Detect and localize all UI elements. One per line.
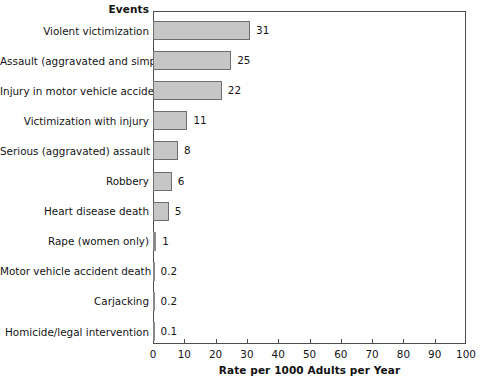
x-axis-tick-label: 20 — [209, 348, 222, 360]
x-axis-tick-label: 100 — [456, 348, 476, 360]
category-label: Victimization with injury — [0, 115, 149, 127]
bar-value-label: 0.2 — [161, 262, 178, 281]
x-axis-tick-label: 80 — [397, 348, 410, 360]
x-axis-tick — [310, 339, 311, 343]
category-label: Rape (women only) — [0, 235, 149, 247]
bar-value-label: 11 — [193, 111, 206, 130]
x-axis-tick-label: 70 — [365, 348, 378, 360]
x-axis-tick-label: 90 — [428, 348, 441, 360]
bar — [153, 111, 187, 130]
category-label: Carjacking — [0, 295, 149, 307]
category-label: Assault (aggravated and simple) — [0, 55, 149, 67]
x-axis-tick — [435, 339, 436, 343]
bar-value-label: 5 — [175, 202, 182, 221]
category-label: Heart disease death — [0, 205, 149, 217]
bar-value-label: 8 — [184, 141, 191, 160]
x-axis-tick — [184, 339, 185, 343]
category-label: Injury in motor vehicle accident — [0, 85, 149, 97]
bar — [153, 322, 155, 341]
bar-value-label: 0.2 — [161, 292, 178, 311]
bar — [153, 232, 156, 251]
bar — [153, 262, 155, 281]
x-axis-tick-label: 60 — [334, 348, 347, 360]
category-label: Motor vehicle accident death — [0, 265, 149, 277]
bar — [153, 81, 222, 100]
bar-value-label: 22 — [228, 81, 241, 100]
x-axis-tick — [372, 339, 373, 343]
x-axis-title: Rate per 1000 Adults per Year — [153, 364, 466, 376]
bar-chart: Events Violent victimizationAssault (agg… — [0, 0, 482, 385]
x-axis-tick — [247, 339, 248, 343]
bar-value-label: 0.1 — [161, 322, 178, 341]
bar-value-label: 6 — [178, 172, 185, 191]
bar-value-label: 31 — [256, 21, 269, 40]
category-label: Violent victimization — [0, 25, 149, 37]
bar — [153, 21, 250, 40]
x-axis-tick-label: 0 — [150, 348, 157, 360]
x-axis-tick-label: 50 — [303, 348, 316, 360]
bar — [153, 202, 169, 221]
bar-value-label: 25 — [237, 51, 250, 70]
bar-value-label: 1 — [162, 232, 169, 251]
bar — [153, 172, 172, 191]
x-axis-tick-label: 10 — [178, 348, 191, 360]
bar — [153, 141, 178, 160]
category-label: Homicide/legal intervention — [0, 326, 149, 338]
category-label: Robbery — [0, 175, 149, 187]
bars-layer: 3125221186510.20.20.1 — [153, 11, 466, 344]
category-label: Serious (aggravated) assault — [0, 145, 149, 157]
category-label-list: Violent victimizationAssault (aggravated… — [0, 11, 149, 344]
x-axis-tick-label: 30 — [240, 348, 253, 360]
bar — [153, 51, 231, 70]
x-axis-tick — [216, 339, 217, 343]
x-axis-tick-label: 40 — [272, 348, 285, 360]
bar — [153, 292, 155, 311]
x-axis-tick — [278, 339, 279, 343]
x-axis-tick — [403, 339, 404, 343]
x-axis-tick — [341, 339, 342, 343]
